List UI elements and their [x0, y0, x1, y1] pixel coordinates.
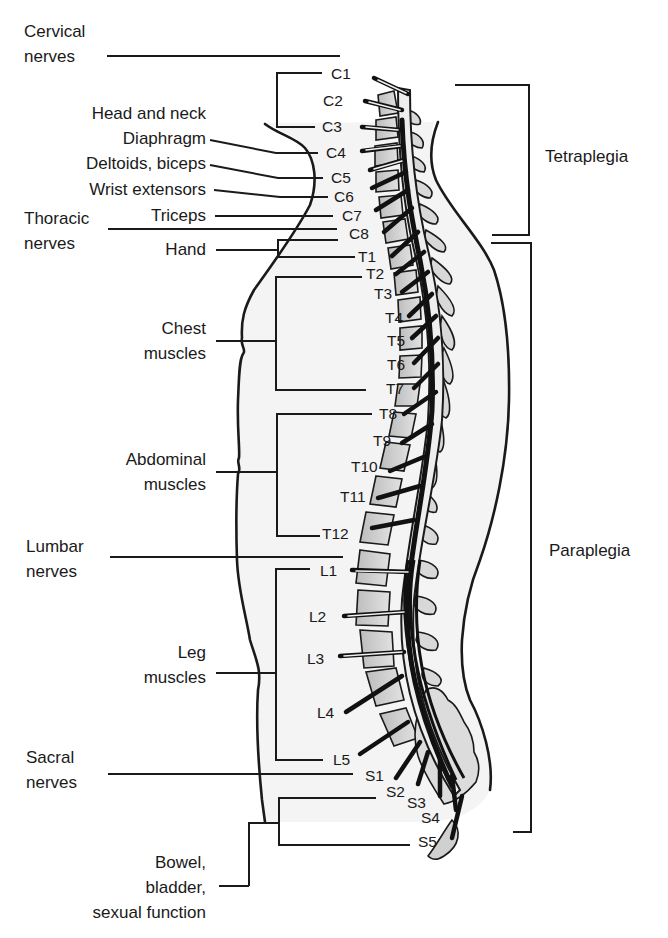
label-line: Chest — [144, 319, 206, 338]
segment-l2: L2 — [309, 609, 326, 625]
label-line: sexual function — [93, 903, 206, 922]
label-wrist-extensors: Wrist extensors — [89, 180, 206, 199]
label-line: muscles — [144, 344, 206, 363]
label-tetraplegia: Tetraplegia — [545, 147, 628, 166]
label-line: muscles — [126, 475, 206, 494]
segment-t4: T4 — [385, 310, 403, 326]
label-line: Lumbar — [26, 537, 84, 556]
segment-t9: T9 — [373, 433, 391, 449]
segment-s2: S2 — [386, 784, 405, 800]
spine-diagram — [0, 0, 668, 938]
segment-c1: C1 — [331, 66, 351, 82]
label-lumbar-nerves: Lumbar nerves — [26, 537, 84, 581]
label-line: Leg — [144, 643, 206, 662]
segment-c8: C8 — [349, 226, 369, 242]
segment-t10: T10 — [351, 459, 378, 475]
label-line: nerves — [26, 562, 84, 581]
label-line: Sacral — [26, 748, 77, 767]
segment-s5: S5 — [418, 834, 437, 850]
label-hand: Hand — [165, 240, 206, 259]
label-sacral-nerves: Sacral nerves — [26, 748, 77, 792]
label-line: Thoracic — [24, 209, 89, 228]
segment-t3: T3 — [374, 286, 392, 302]
label-thoracic-nerves: Thoracic nerves — [24, 209, 89, 253]
label-deltoids-biceps: Deltoids, biceps — [86, 154, 206, 173]
label-cervical-nerves: Cervical nerves — [24, 22, 85, 66]
label-line: nerves — [24, 234, 89, 253]
label-bowel-bladder-sexual: Bowel, bladder, sexual function — [93, 853, 206, 922]
segment-c5: C5 — [331, 170, 351, 186]
segment-t12: T12 — [322, 526, 349, 542]
label-triceps: Triceps — [151, 206, 206, 225]
segment-t11: T11 — [340, 489, 366, 505]
label-paraplegia: Paraplegia — [549, 541, 630, 560]
segment-l5: L5 — [333, 752, 350, 768]
segment-t8: T8 — [379, 406, 397, 422]
label-line: Abdominal — [126, 450, 206, 469]
segment-c6: C6 — [334, 189, 354, 205]
label-chest-muscles: Chest muscles — [144, 319, 206, 363]
label-line: nerves — [24, 47, 85, 66]
label-line: muscles — [144, 668, 206, 687]
label-head-and-neck: Head and neck — [92, 104, 206, 123]
segment-s1: S1 — [365, 768, 384, 784]
label-abdominal-muscles: Abdominal muscles — [126, 450, 206, 494]
segment-l4: L4 — [317, 705, 334, 721]
segment-l1: L1 — [320, 563, 337, 579]
segment-t6: T6 — [387, 357, 405, 373]
segment-c7: C7 — [342, 208, 362, 224]
label-line: Cervical — [24, 22, 85, 41]
segment-c3: C3 — [322, 119, 342, 135]
segment-t2: T2 — [366, 266, 384, 282]
label-line: Bowel, — [93, 853, 206, 872]
segment-c2: C2 — [323, 93, 343, 109]
label-line: bladder, — [93, 878, 206, 897]
segment-t1: T1 — [358, 249, 376, 265]
segment-s4: S4 — [421, 810, 440, 826]
segment-l3: L3 — [307, 651, 324, 667]
label-leg-muscles: Leg muscles — [144, 643, 206, 687]
segment-t7: T7 — [386, 381, 404, 397]
label-line: nerves — [26, 773, 77, 792]
segment-c4: C4 — [326, 145, 346, 161]
label-diaphragm: Diaphragm — [123, 129, 206, 148]
segment-t5: T5 — [387, 333, 405, 349]
